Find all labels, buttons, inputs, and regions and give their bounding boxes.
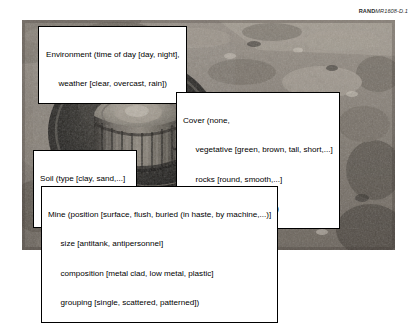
callout-mine: Mine (position [surface, flush, buried (… [41, 186, 278, 323]
figure-id-number: MR1608-D.1 [375, 8, 408, 14]
callout-mine-line-1: Mine (position [surface, flush, buried (… [48, 210, 271, 220]
callout-mine-line-3: composition [metal clad, low metal, plas… [48, 269, 271, 279]
callout-mine-line-4: grouping [single, scattered, patterned]) [48, 298, 271, 308]
callout-mine-line-2: size [antitank, antipersonnel] [48, 239, 271, 249]
figure-id: RANDMR1608-D.1 [359, 8, 408, 14]
callout-cover-line-1: Cover (none, [183, 116, 333, 126]
figure-id-prefix: RAND [359, 8, 376, 14]
callout-environment-line-2: weather [clear, overcast, rain]) [46, 79, 179, 89]
callout-cover-line-3: rocks [round, smooth,...] [183, 175, 333, 185]
callout-environment-line-1: Environment (time of day [day, night], [46, 50, 179, 60]
callout-soil-line-1: Soil (type [clay, sand,...] [40, 174, 130, 184]
callout-cover-line-2: vegetative [green, brown, tall, short,..… [183, 145, 333, 155]
callout-environment: Environment (time of day [day, night], w… [38, 26, 187, 104]
